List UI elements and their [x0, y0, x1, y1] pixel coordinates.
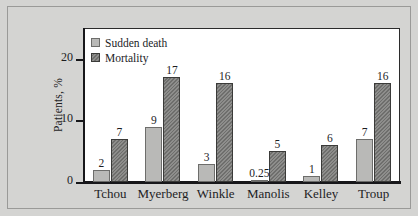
x-axis-label: Kelley	[304, 186, 339, 202]
x-axis-label: Manolis	[247, 186, 290, 202]
y-axis-tick: 10	[8, 120, 84, 121]
bar-group: 0.255	[242, 28, 295, 182]
legend: Sudden death Mortality	[91, 36, 167, 66]
bar-sudden-death[interactable]: 3	[198, 164, 215, 182]
bar-value-label: 16	[219, 70, 231, 82]
bar-group: 16	[295, 28, 348, 182]
bar-value-label: 7	[362, 126, 368, 138]
bar-sudden-death[interactable]: 1	[303, 176, 320, 182]
x-axis-label: Myerberg	[137, 186, 188, 202]
figure: Patients, % 20100 279173160.25516716 Tch…	[0, 0, 418, 216]
bar-sudden-death[interactable]: 2	[93, 170, 110, 182]
x-axis-label: Winkle	[197, 186, 235, 202]
bar-mortality[interactable]: 17	[163, 77, 180, 182]
bar-value-label: 7	[116, 126, 122, 138]
bar-mortality[interactable]: 16	[216, 83, 233, 182]
bar-value-label: 3	[204, 151, 210, 163]
bar-mortality[interactable]: 6	[321, 145, 338, 182]
bar-value-label: 1	[309, 163, 315, 175]
x-axis-labels: TchouMyerbergWinkleManolisKelleyTroup	[84, 186, 400, 206]
bar-sudden-death[interactable]: 0.25	[251, 180, 268, 182]
bar-group: 316	[189, 28, 242, 182]
legend-item-mortality: Mortality	[91, 51, 167, 64]
y-axis-tick-label: 20	[33, 50, 73, 65]
bar-mortality[interactable]: 16	[374, 83, 391, 182]
bar-value-label: 6	[327, 132, 333, 144]
y-axis-tick: 20	[8, 59, 84, 60]
bar-value-label: 5	[274, 138, 280, 150]
y-axis-tick-label: 10	[33, 111, 73, 126]
y-axis-title: Patients, %	[52, 50, 64, 160]
x-axis-label: Troup	[358, 186, 389, 202]
legend-swatch-icon-mortality	[91, 53, 100, 62]
legend-label-sudden-death: Sudden death	[105, 37, 167, 49]
bar-value-label: 17	[166, 64, 178, 76]
bar-value-label: 2	[98, 157, 104, 169]
figure-frame: Patients, % 20100 279173160.25516716 Tch…	[7, 6, 411, 209]
y-axis-tick: 0	[8, 182, 84, 183]
bar-sudden-death[interactable]: 9	[145, 127, 162, 182]
bar-value-label: 16	[377, 70, 389, 82]
legend-item-sudden-death: Sudden death	[91, 36, 167, 49]
legend-label-mortality: Mortality	[105, 52, 148, 64]
legend-swatch-icon-sudden-death	[91, 38, 100, 47]
bar-value-label: 9	[151, 114, 157, 126]
bar-sudden-death[interactable]: 7	[356, 139, 373, 182]
bar-mortality[interactable]: 5	[269, 151, 286, 182]
y-axis-tick-label: 0	[33, 173, 73, 188]
x-axis-label: Tchou	[94, 186, 126, 202]
bar-mortality[interactable]: 7	[111, 139, 128, 182]
bar-group: 716	[347, 28, 400, 182]
bar-value-label: 0.25	[249, 167, 269, 179]
